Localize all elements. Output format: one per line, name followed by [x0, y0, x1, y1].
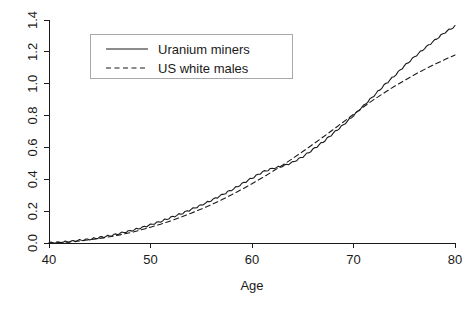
x-axis-title: Age	[240, 278, 263, 293]
y-axis-tick-label: 1.2	[25, 43, 40, 61]
y-axis-tick-label: 0.6	[25, 138, 40, 156]
x-axis-tick-label: 70	[346, 252, 360, 267]
x-axis-tick-label: 60	[245, 252, 259, 267]
y-axis-tick-label: 0.4	[25, 170, 40, 188]
legend-label-2: US white males	[158, 61, 249, 76]
legend-label-1: Uranium miners	[158, 42, 250, 57]
y-axis-tick-label: 0.0	[25, 234, 40, 252]
x-axis-tick-label: 80	[448, 252, 462, 267]
y-axis-tick-label: 0.8	[25, 107, 40, 125]
y-axis-tick-label: 1.0	[25, 75, 40, 93]
x-axis-tick-label: 40	[42, 252, 56, 267]
y-axis-tick-label: 1.4	[25, 11, 40, 29]
y-axis-tick-label: 0.2	[25, 202, 40, 220]
chart-page: 0.00.20.40.60.81.01.21.44050607080AgeUra…	[0, 0, 476, 313]
series-line-2	[49, 55, 455, 243]
cumulative-hazard-chart: 0.00.20.40.60.81.01.21.44050607080AgeUra…	[0, 0, 476, 313]
x-axis-tick-label: 50	[143, 252, 157, 267]
